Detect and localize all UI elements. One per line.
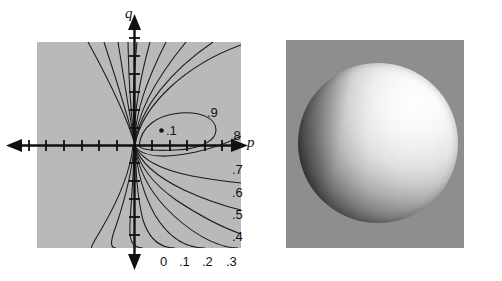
contour-level-label-05: .5 [232, 208, 243, 221]
contour-curve [135, 45, 241, 145]
contour-curve-level-05 [135, 146, 241, 234]
p-axis-label: p [247, 135, 255, 150]
contour-plot-panel: q p .1 .9 .8 .7 .6 .5 .4 0 .1 .2 .3 [0, 0, 268, 281]
marked-point-dot [159, 128, 164, 133]
contour-level-label-04: .4 [232, 230, 243, 243]
shaded-sphere [298, 63, 458, 223]
p-axis-arrow-left [6, 139, 22, 152]
x-tick-label-1: .1 [179, 255, 190, 268]
plot-axes [6, 14, 248, 270]
contour-plot-graphic [0, 0, 268, 281]
q-axis-label: q [125, 6, 133, 21]
contour-level-label-06: .6 [232, 186, 243, 199]
figure-root: q p .1 .9 .8 .7 .6 .5 .4 0 .1 .2 .3 [0, 0, 502, 281]
marked-point-label: .1 [166, 124, 177, 137]
contour-curve [91, 146, 133, 248]
contour-curve [135, 146, 205, 248]
sphere-rim-shading [298, 63, 458, 223]
contour-level-label-08: .8 [230, 129, 241, 142]
sphere-panel [286, 40, 464, 248]
x-tick-label-2: .2 [202, 255, 213, 268]
contour-level-label-07: .7 [232, 163, 243, 176]
x-tick-label-3: .3 [226, 255, 237, 268]
contour-level-label-09: .9 [207, 106, 218, 119]
x-tick-label-0: 0 [160, 255, 167, 268]
q-axis-arrow-down [128, 254, 141, 270]
